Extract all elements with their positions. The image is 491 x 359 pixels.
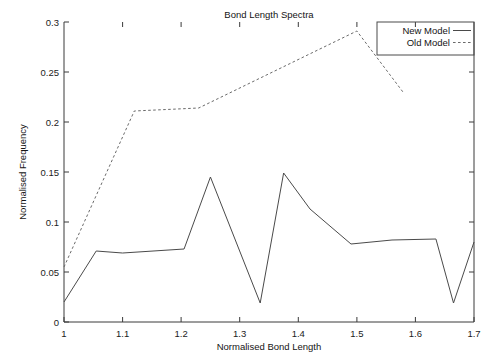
y-tick-group: 0.2 — [46, 117, 474, 128]
y-axis: 0 0.05 0.1 0.15 0.2 — [41, 17, 475, 328]
x-tick-group: 1.4 — [292, 22, 305, 339]
x-axis-title: Normalised Bond Length — [217, 341, 322, 352]
x-tick-label: 1.5 — [350, 328, 363, 339]
y-tick-label: 0.05 — [41, 267, 60, 278]
x-tick-label: 1.6 — [409, 328, 422, 339]
plot-frame — [64, 22, 474, 322]
y-tick-label: 0 — [54, 317, 59, 328]
x-tick-label: 1.3 — [233, 328, 246, 339]
y-tick-label: 0.2 — [46, 117, 59, 128]
x-tick-group: 1.5 — [350, 22, 363, 339]
series-layer — [64, 31, 474, 303]
y-tick-group: 0.3 — [46, 17, 69, 28]
y-tick-group: 0.1 — [46, 217, 474, 228]
series-line-old-model — [64, 31, 404, 267]
x-tick-group: 1 — [61, 317, 66, 339]
x-tick-group: 1.1 — [116, 22, 129, 339]
y-tick-group: 0 — [54, 317, 69, 328]
x-tick-group: 1.6 — [409, 22, 422, 339]
x-tick-group: 1.7 — [467, 317, 480, 339]
x-tick-label: 1.1 — [116, 328, 129, 339]
y-tick-label: 0.3 — [46, 17, 59, 28]
chart-title: Bond Length Spectra — [224, 9, 314, 20]
y-tick-group: 0.25 — [41, 67, 475, 78]
y-tick-label: 0.25 — [41, 67, 60, 78]
x-tick-label: 1 — [61, 328, 66, 339]
x-tick-label: 1.7 — [467, 328, 480, 339]
x-tick-group: 1.3 — [233, 22, 246, 339]
y-tick-label: 0.1 — [46, 217, 59, 228]
series-line-new-model — [64, 173, 474, 303]
bond-length-spectra-chart: Bond Length Spectra 0 0.05 0.1 — [0, 0, 491, 359]
chart-canvas: Bond Length Spectra 0 0.05 0.1 — [0, 0, 491, 359]
x-tick-label: 1.2 — [174, 328, 187, 339]
y-tick-group: 0.05 — [41, 267, 475, 278]
legend: New Model Old Model — [377, 22, 474, 55]
legend-label-new-model: New Model — [402, 25, 450, 36]
y-axis-title: Normalised Frequency — [17, 124, 28, 220]
y-tick-label: 0.15 — [41, 167, 60, 178]
x-axis: 1 1.1 1.2 1.3 1.4 — [61, 22, 480, 339]
legend-label-old-model: Old Model — [407, 37, 450, 48]
x-tick-group: 1.2 — [174, 22, 187, 339]
x-tick-label: 1.4 — [292, 328, 305, 339]
